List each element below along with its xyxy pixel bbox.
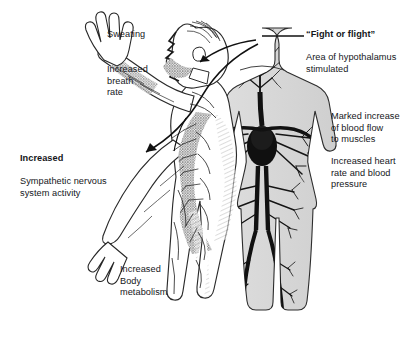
label-bloodflow-text: Marked increase of blood flow to muscles — [331, 111, 400, 144]
label-blood-flow-to-muscles: Marked increase of blood flow to muscles — [331, 100, 400, 146]
label-fight-text: Area of hypothalamus stimulated — [306, 52, 396, 73]
label-sympathetic-activity: Increased Sympathetic nervous system act… — [20, 142, 107, 199]
fight-or-flight-diagram: { "diagram": { "title": "Fight or flight… — [0, 0, 416, 360]
label-body-metabolism: Increased Body metabolism — [120, 253, 167, 299]
carotid-trunk — [260, 92, 262, 126]
label-fight-lead: “Fight or flight” — [306, 29, 375, 39]
label-heart-rate-blood-pressure: Increased heart rate and blood pressure — [331, 145, 396, 191]
label-heart-text: Increased heart rate and blood pressure — [331, 156, 396, 189]
label-sweating-text: Sweating — [107, 29, 145, 39]
label-increased-breath-rate: Increased breath rate — [107, 53, 148, 99]
label-breath-text: Increased breath rate — [107, 64, 148, 97]
label-sympathetic-lead: Increased — [20, 153, 63, 163]
label-fight-or-flight: “Fight or flight” Area of hypothalamus s… — [306, 18, 396, 75]
label-sweating: Sweating — [107, 18, 145, 41]
label-sympathetic-text: Sympathetic nervous system activity — [20, 176, 107, 197]
label-metabolism-text: Increased Body metabolism — [120, 264, 167, 297]
